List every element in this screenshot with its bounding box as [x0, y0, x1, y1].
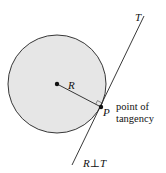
point-label: P [102, 106, 110, 118]
point-desc-line2: tangency [116, 113, 155, 124]
radius-label: R [67, 79, 75, 91]
point-desc-line1: point of [116, 101, 149, 112]
relation-label: R⊥T [82, 157, 107, 169]
tangent-diagram: T R P point of tangency R⊥T [0, 0, 166, 173]
tangent-label: T [135, 11, 142, 23]
center-point [55, 82, 59, 86]
